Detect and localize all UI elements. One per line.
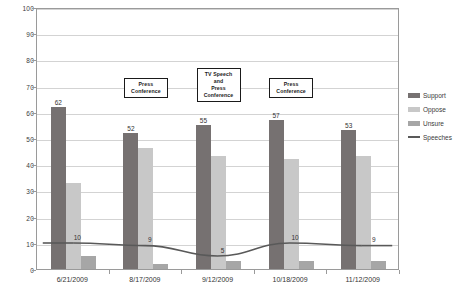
chart-container: 6252555753 1095109 Press ConferenceTV Sp… [0, 0, 458, 302]
legend-label: Oppose [423, 106, 446, 113]
y-axis-tick-mark [32, 139, 36, 140]
bar-value-label: 57 [272, 112, 279, 119]
legend-label: Speeches [423, 134, 452, 141]
y-axis-tick-label: 80 [6, 57, 34, 64]
y-axis-tick-label: 10 [6, 240, 34, 247]
legend-line-icon [408, 136, 420, 138]
y-axis-tick-label: 20 [6, 214, 34, 221]
legend-swatch-icon [408, 93, 420, 98]
plot-area: 6252555753 1095109 Press ConferenceTV Sp… [36, 8, 399, 270]
x-axis-tick-label: 6/21/2009 [57, 276, 88, 283]
line-value-label: 9 [148, 236, 152, 243]
bar-support-1 [123, 133, 138, 269]
line-value-label: 9 [372, 236, 376, 243]
y-axis-tick-label: 70 [6, 83, 34, 90]
legend-item-speeches: Speeches [408, 130, 458, 144]
y-axis-tick-mark [32, 191, 36, 192]
x-axis-tick-mark [109, 270, 110, 274]
x-axis-tick-mark [399, 270, 400, 274]
gridline [37, 61, 398, 62]
bar-oppose-1 [138, 148, 153, 269]
x-axis-tick-mark [181, 270, 182, 274]
y-axis-tick-mark [32, 87, 36, 88]
y-axis-tick-mark [32, 60, 36, 61]
bar-unsure-3 [299, 261, 314, 269]
y-axis-tick-mark [32, 165, 36, 166]
bar-unsure-0 [81, 256, 96, 269]
legend-swatch-icon [408, 121, 420, 126]
bar-unsure-1 [153, 264, 168, 269]
x-axis-tick-label: 9/12/2009 [202, 276, 233, 283]
bar-support-4 [341, 130, 356, 269]
x-axis-tick-label: 11/12/2009 [345, 276, 380, 283]
legend-item-oppose: Oppose [408, 102, 458, 116]
y-axis-tick-mark [32, 34, 36, 35]
x-axis-tick-label: 10/18/2009 [273, 276, 308, 283]
y-axis-tick-mark [32, 113, 36, 114]
y-axis-tick-label: 30 [6, 188, 34, 195]
bar-unsure-4 [371, 261, 386, 269]
bar-oppose-3 [284, 159, 299, 269]
x-axis-tick-mark [326, 270, 327, 274]
legend-swatch-icon [408, 107, 420, 112]
bar-value-label: 52 [127, 125, 134, 132]
annotation-callout: TV Speech and Press Conference [197, 68, 241, 102]
y-axis-tick-label: 0 [6, 267, 34, 274]
y-axis-tick-label: 50 [6, 136, 34, 143]
gridline [37, 35, 398, 36]
y-axis-tick-mark [32, 8, 36, 9]
line-value-label: 10 [74, 234, 81, 241]
y-axis-tick-label: 90 [6, 31, 34, 38]
y-axis-tick-mark [32, 244, 36, 245]
bar-support-3 [269, 120, 284, 269]
chart-legend: SupportOpposeUnsureSpeeches [408, 88, 458, 144]
bar-value-label: 53 [345, 122, 352, 129]
gridline [37, 114, 398, 115]
y-axis-tick-label: 100 [6, 5, 34, 12]
y-axis-tick-label: 40 [6, 162, 34, 169]
y-axis-tick-label: 60 [6, 109, 34, 116]
line-value-label: 5 [221, 247, 225, 254]
y-axis-tick-mark [32, 270, 36, 271]
x-axis-tick-mark [254, 270, 255, 274]
annotation-callout: Press Conference [269, 78, 313, 98]
line-value-label: 10 [291, 234, 298, 241]
legend-item-unsure: Unsure [408, 116, 458, 130]
x-axis-tick-label: 8/17/2009 [129, 276, 160, 283]
legend-item-support: Support [408, 88, 458, 102]
bar-support-0 [51, 107, 66, 269]
y-axis-tick-mark [32, 218, 36, 219]
bar-support-2 [196, 125, 211, 269]
legend-label: Unsure [423, 120, 444, 127]
bar-oppose-4 [356, 156, 371, 269]
legend-label: Support [423, 92, 446, 99]
annotation-callout: Press Conference [124, 78, 168, 98]
bar-value-label: 55 [200, 117, 207, 124]
bar-unsure-2 [226, 261, 241, 269]
bar-value-label: 62 [55, 99, 62, 106]
gridline [37, 9, 398, 10]
bar-oppose-0 [66, 183, 81, 269]
